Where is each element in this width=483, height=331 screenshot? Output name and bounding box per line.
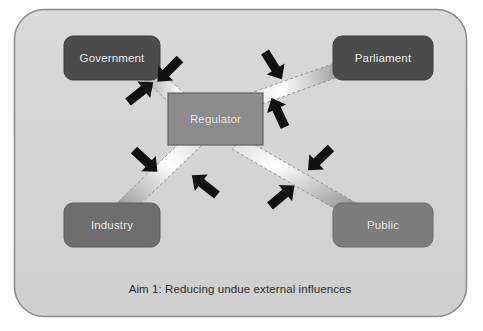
diagram-graphic [0, 0, 483, 331]
node-regulator[interactable] [168, 93, 263, 145]
node-industry[interactable] [64, 203, 160, 247]
node-government[interactable] [64, 36, 160, 80]
diagram-canvas: Government Parliament Regulator Industry… [0, 0, 483, 331]
node-public[interactable] [333, 203, 433, 247]
node-parliament[interactable] [333, 36, 433, 80]
